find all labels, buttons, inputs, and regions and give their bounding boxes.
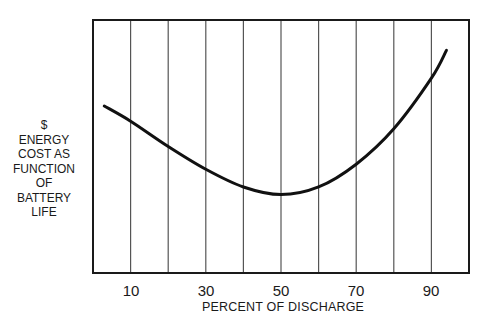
x-tick-label: 30 [198, 282, 215, 299]
x-tick-label: 50 [273, 282, 290, 299]
vertical-gridlines [131, 20, 432, 273]
x-tick-label: 90 [423, 282, 440, 299]
x-axis-label: PERCENT OF DISCHARGE [202, 300, 364, 314]
energy-cost-curve [104, 50, 446, 194]
plot-area [0, 0, 495, 332]
x-tick-label: 10 [123, 282, 140, 299]
x-tick-label: 70 [348, 282, 365, 299]
